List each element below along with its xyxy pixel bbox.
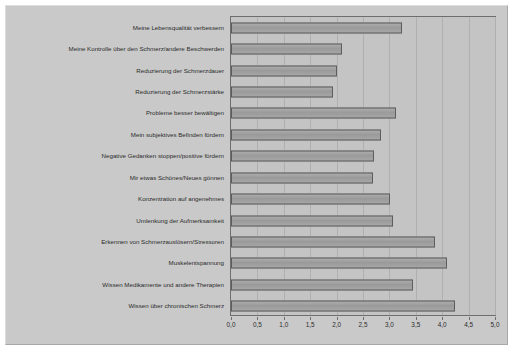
category-label: Negative Gedanken stoppen/positive förde… bbox=[16, 152, 224, 159]
tick-label: 5,0 bbox=[491, 321, 500, 329]
category-label: Reduzierung der Schmerzdauer bbox=[16, 66, 224, 73]
bar bbox=[231, 279, 413, 290]
tick-mark bbox=[416, 317, 417, 320]
plot-area bbox=[230, 16, 496, 316]
bar bbox=[231, 215, 393, 226]
tick-label: 0,5 bbox=[253, 321, 262, 329]
tick-mark bbox=[363, 317, 364, 320]
bar bbox=[231, 87, 333, 98]
tick-mark bbox=[231, 317, 232, 320]
tick-label: 2,0 bbox=[332, 321, 341, 329]
screenshot-root: Meine Lebensqualität verbessernMeine Kon… bbox=[0, 0, 513, 358]
tick-label: 4,5 bbox=[464, 321, 473, 329]
category-label: Umlenkung der Aufmerksamkeit bbox=[16, 216, 224, 223]
tick-label: 4,0 bbox=[438, 321, 447, 329]
bar bbox=[231, 44, 342, 55]
tick-label: 0,0 bbox=[227, 321, 236, 329]
category-axis-labels: Meine Lebensqualität verbessernMeine Kon… bbox=[16, 16, 228, 316]
bar bbox=[231, 301, 455, 312]
tick-mark bbox=[284, 317, 285, 320]
category-label: Wissen über chronischen Schmerz bbox=[16, 302, 224, 309]
category-label: Mein subjektives Befinden fördern bbox=[16, 130, 224, 137]
tick-mark bbox=[495, 317, 496, 320]
bar bbox=[231, 151, 374, 162]
tick-mark bbox=[469, 317, 470, 320]
category-label: Probleme besser bewältigen bbox=[16, 109, 224, 116]
bar-chart: Meine Lebensqualität verbessernMeine Kon… bbox=[16, 14, 499, 336]
bar bbox=[231, 258, 447, 269]
gridline bbox=[495, 17, 496, 315]
value-axis: 0,00,51,01,52,02,53,03,54,04,55,0 bbox=[230, 317, 496, 335]
tick-label: 3,0 bbox=[385, 321, 394, 329]
bar bbox=[231, 22, 402, 33]
bar-series bbox=[231, 17, 495, 315]
category-label: Meine Kontrolle über den Schmerz/andere … bbox=[16, 45, 224, 52]
bar bbox=[231, 129, 381, 140]
tick-mark bbox=[442, 317, 443, 320]
bar bbox=[231, 237, 435, 248]
bar bbox=[231, 108, 396, 119]
chart-panel: Meine Lebensqualität verbessernMeine Kon… bbox=[5, 5, 508, 345]
tick-mark bbox=[337, 317, 338, 320]
bar bbox=[231, 65, 337, 76]
tick-mark bbox=[310, 317, 311, 320]
tick-mark bbox=[389, 317, 390, 320]
tick-mark bbox=[257, 317, 258, 320]
category-label: Wissen Medikamente und andere Therapien bbox=[16, 280, 224, 287]
category-label: Meine Lebensqualität verbessern bbox=[16, 23, 224, 30]
tick-label: 1,0 bbox=[279, 321, 288, 329]
category-label: Reduzierung der Schmerzstärke bbox=[16, 88, 224, 95]
category-label: Konzentration auf angenehmes bbox=[16, 195, 224, 202]
category-label: Muskelentspannung bbox=[16, 259, 224, 266]
category-label: Erkennen von Schmerzauslösern/Stressoren bbox=[16, 238, 224, 245]
bar bbox=[231, 172, 373, 183]
bar bbox=[231, 194, 390, 205]
tick-label: 3,5 bbox=[411, 321, 420, 329]
category-label: Mir etwas Schönes/Neues gönnen bbox=[16, 173, 224, 180]
tick-label: 2,5 bbox=[359, 321, 368, 329]
tick-label: 1,5 bbox=[306, 321, 315, 329]
